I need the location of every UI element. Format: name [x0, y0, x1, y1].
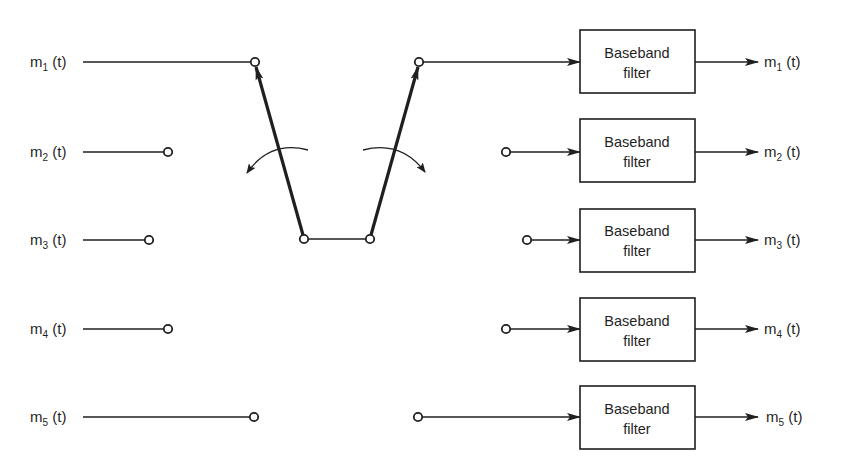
svg-text:m1 (t): m1 (t): [30, 53, 66, 73]
svg-text:m1 (t): m1 (t): [764, 53, 800, 73]
svg-text:m3 (t): m3 (t): [30, 231, 66, 251]
input-label-m4: m4 (t): [30, 320, 66, 340]
output-terminal-2: [502, 148, 510, 156]
tdm-diagram: m1 (t) m2 (t) m3 (t) m4 (t) m5 (t): [0, 0, 843, 474]
input-terminal-3: [145, 236, 153, 244]
output-label-m3: m3 (t): [764, 231, 800, 251]
output-terminal-4: [502, 325, 510, 333]
input-terminal-2: [164, 148, 172, 156]
svg-text:m5 (t): m5 (t): [30, 408, 66, 428]
input-terminal-1: [251, 58, 259, 66]
svg-text:filter: filter: [623, 243, 651, 259]
svg-text:m3 (t): m3 (t): [764, 231, 800, 251]
input-terminal-5: [250, 413, 258, 421]
svg-text:m4 (t): m4 (t): [30, 320, 66, 340]
commutator-arm: [256, 67, 303, 235]
output-terminal-5: [414, 413, 422, 421]
baseband-filter-1: Baseband filter: [580, 30, 695, 93]
svg-text:filter: filter: [623, 154, 651, 170]
baseband-filter-3: Baseband filter: [580, 209, 695, 272]
output-label-m5: m5 (t): [766, 408, 802, 428]
baseband-filter-2: Baseband filter: [580, 119, 695, 182]
output-terminal-1: [415, 58, 423, 66]
baseband-filter-4: Baseband filter: [580, 298, 695, 361]
decommutator-pivot: [366, 235, 374, 243]
output-terminal-3: [523, 236, 531, 244]
svg-text:Baseband: Baseband: [604, 45, 669, 61]
svg-text:m2 (t): m2 (t): [30, 143, 66, 163]
input-label-m5: m5 (t): [30, 408, 66, 428]
svg-text:filter: filter: [623, 421, 651, 437]
output-label-m2: m2 (t): [764, 143, 800, 163]
svg-text:Baseband: Baseband: [604, 313, 669, 329]
svg-text:m5 (t): m5 (t): [766, 408, 802, 428]
input-label-m3: m3 (t): [30, 231, 66, 251]
svg-text:m2 (t): m2 (t): [764, 143, 800, 163]
input-label-m1: m1 (t): [30, 53, 66, 73]
output-label-m4: m4 (t): [764, 320, 800, 340]
svg-text:Baseband: Baseband: [604, 134, 669, 150]
output-label-m1: m1 (t): [764, 53, 800, 73]
input-terminal-4: [164, 325, 172, 333]
input-label-m2: m2 (t): [30, 143, 66, 163]
svg-text:Baseband: Baseband: [604, 223, 669, 239]
svg-text:filter: filter: [623, 65, 651, 81]
commutator-pivot: [300, 235, 308, 243]
svg-text:filter: filter: [623, 333, 651, 349]
svg-text:Baseband: Baseband: [604, 401, 669, 417]
decommutator-arm: [371, 67, 418, 235]
svg-text:m4 (t): m4 (t): [764, 320, 800, 340]
baseband-filter-5: Baseband filter: [580, 386, 695, 449]
rotation-arrow-ccw-icon: [247, 148, 308, 173]
